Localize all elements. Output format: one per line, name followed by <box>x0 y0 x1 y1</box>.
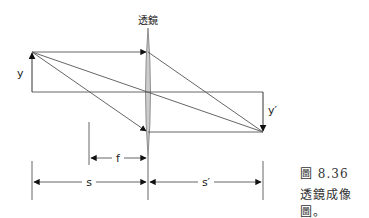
image-label: y′ <box>268 104 278 117</box>
object-distance-dimension: s <box>34 176 146 189</box>
object-label: y <box>17 67 24 80</box>
figure-caption: 透鏡成像圖。 <box>300 185 369 218</box>
focal-label: f <box>116 152 121 165</box>
object-distance-label: s <box>86 176 92 189</box>
image-distance-dimension: s′ <box>150 176 261 189</box>
image-distance-label: s′ <box>202 176 211 189</box>
focal-length-dimension: f <box>91 152 146 165</box>
figure-number: 圖 8.36 <box>300 164 349 181</box>
lens-label: 透鏡 <box>138 14 158 26</box>
